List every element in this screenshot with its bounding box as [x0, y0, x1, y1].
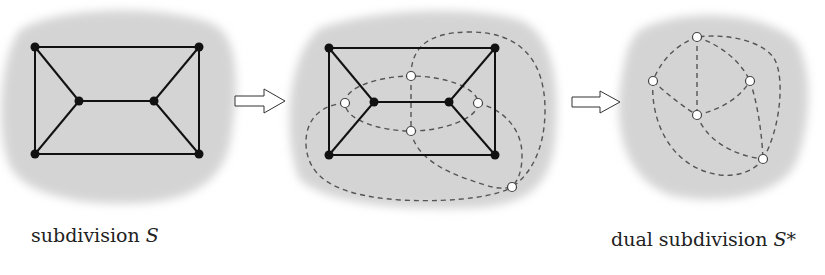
caption-left-math: S: [146, 224, 159, 246]
caption-subdivision: subdivision S: [31, 224, 159, 246]
caption-right-math: S*: [774, 228, 797, 250]
caption-left-text: subdivision: [31, 224, 146, 246]
caption-right-text: dual subdivision: [611, 228, 774, 250]
caption-dual-subdivision: dual subdivision S*: [611, 228, 796, 250]
blob-dual: [619, 15, 808, 199]
blob-primal: [2, 11, 236, 204]
arrow-right-icon: [235, 89, 285, 113]
arrow-right-icon: [572, 91, 620, 113]
